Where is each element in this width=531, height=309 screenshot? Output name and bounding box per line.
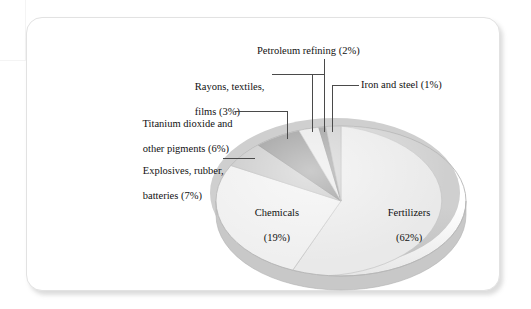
label-fertilizers-line1: Fertilizers bbox=[388, 207, 431, 218]
leader-line-explosives-horizontal bbox=[223, 158, 255, 159]
label-chemicals-line1: Chemicals bbox=[255, 207, 299, 218]
leader-line-iron-horizontal bbox=[332, 85, 359, 86]
label-fertilizers: Fertilizers (62%) bbox=[372, 194, 430, 257]
figure-card: Petroleum refining (2%) Rayons, textiles… bbox=[26, 17, 500, 291]
label-explosives-rubber-batteries: Explosives, rubber, batteries (7%) bbox=[127, 152, 224, 215]
label-chemicals: Chemicals (19%) bbox=[239, 194, 299, 257]
label-iron-and-steel: Iron and steel (1%) bbox=[361, 79, 442, 92]
label-petroleum-refining: Petroleum refining (2%) bbox=[257, 45, 360, 58]
label-chemicals-line2: (19%) bbox=[264, 232, 290, 243]
leader-line-rayons-horizontal bbox=[272, 74, 325, 75]
leader-line-titanium-horizontal bbox=[235, 111, 288, 112]
label-explosives-line2: batteries (7%) bbox=[143, 190, 202, 201]
leader-line-rayons-vertical bbox=[312, 74, 313, 132]
pie-chart-figure: Petroleum refining (2%) Rayons, textiles… bbox=[0, 0, 531, 309]
leader-line-iron-vertical bbox=[332, 85, 333, 132]
leader-line-titanium-vertical bbox=[287, 111, 288, 139]
label-explosives-line1: Explosives, rubber, bbox=[143, 165, 224, 176]
label-rayons-line1: Rayons, textiles, bbox=[195, 81, 265, 92]
label-fertilizers-line2: (62%) bbox=[396, 232, 422, 243]
scan-artifact-line-horizontal bbox=[0, 60, 26, 61]
label-titanium-line1: Titanium dioxide and bbox=[143, 118, 233, 129]
leader-line-petroleum-refining bbox=[324, 59, 325, 132]
